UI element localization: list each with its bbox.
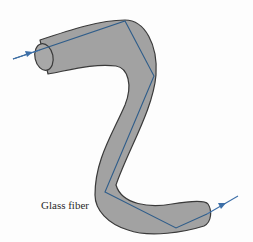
output-arrow-icon: [218, 203, 226, 209]
glass-fiber-diagram: [0, 0, 253, 242]
input-arrow-icon: [25, 51, 33, 57]
glass-fiber-label: Glass fiber: [41, 199, 89, 211]
diagram-canvas: Glass fiber: [0, 0, 253, 242]
